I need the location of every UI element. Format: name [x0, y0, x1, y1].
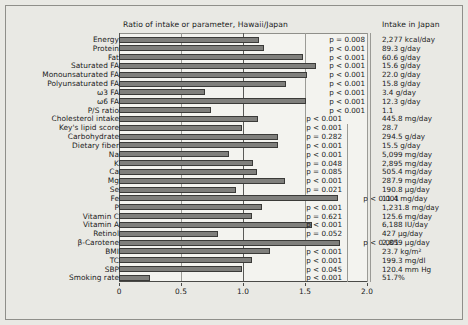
- axis-tick-label: 1.0: [237, 287, 249, 296]
- axis-tick-label: 1.5: [299, 287, 311, 296]
- axis-tick: [181, 283, 182, 286]
- axis-tick: [119, 283, 120, 286]
- pvalue-divider-inner: [347, 124, 348, 282]
- axis-tick: [367, 283, 368, 286]
- axis-tick-label: 0.5: [175, 287, 187, 296]
- axis-tick-label: 0: [117, 287, 122, 296]
- column-header-intake: Intake in Japan: [382, 20, 440, 29]
- axis-tick: [243, 283, 244, 286]
- p-value-label: p < 0.001: [0, 273, 342, 282]
- chart-row: Smoking ratep < 0.00151.7%: [0, 272, 468, 283]
- intake-value: 51.7%: [382, 273, 405, 282]
- figure-container: Ratio of intake or parameter, Hawaii/Jap…: [0, 0, 468, 325]
- axis-tick: [305, 283, 306, 286]
- chart-title-ratio: Ratio of intake or parameter, Hawaii/Jap…: [123, 20, 288, 29]
- pvalue-divider-lower: [370, 124, 371, 282]
- pvalue-divider-upper: [370, 33, 371, 124]
- axis-tick-label: 2.0: [361, 287, 373, 296]
